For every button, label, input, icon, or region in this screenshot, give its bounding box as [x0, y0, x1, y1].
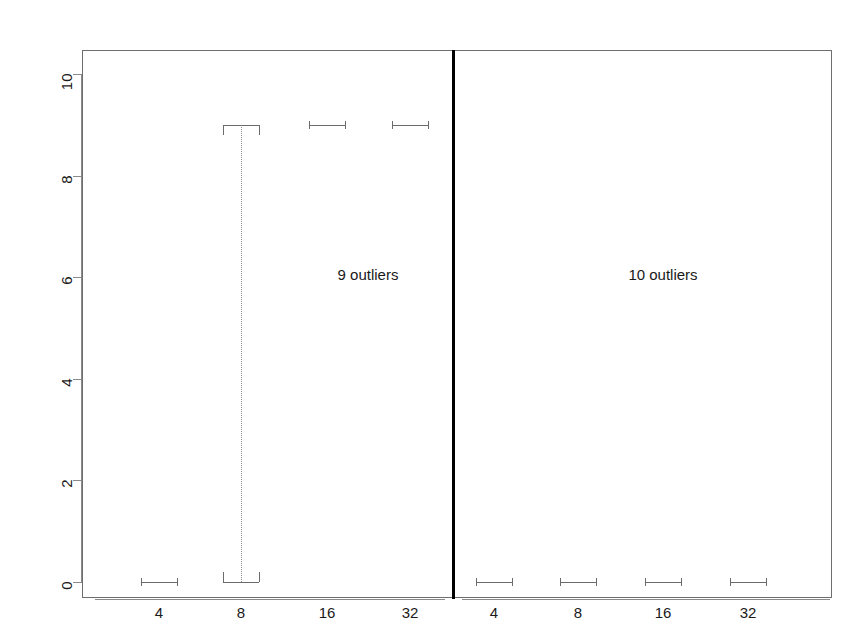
box-right-edge [766, 578, 767, 586]
x-axis-line [95, 599, 445, 600]
box-lower-left-side [223, 572, 224, 582]
box-left-edge [141, 578, 142, 586]
x-tick-label: 4 [139, 604, 179, 621]
x-tick-label: 16 [307, 604, 347, 621]
box-upper-left-side [223, 125, 224, 135]
boxplot-figure: 0246810 481632481632 9 outliers 10 outli… [0, 0, 865, 626]
box-median-line [730, 582, 766, 583]
box-upper-right-side [259, 125, 260, 135]
x-tick-label: 8 [221, 604, 261, 621]
x-tick-label: 4 [474, 604, 514, 621]
box-median-line [476, 582, 512, 583]
box-median-line [560, 582, 596, 583]
box-median-line [645, 582, 681, 583]
box-left-edge [392, 121, 393, 129]
x-tick-label: 16 [643, 604, 683, 621]
y-tick-label-text: 2 [58, 480, 75, 520]
box-right-edge [428, 121, 429, 129]
y-tick-label: 8 [22, 167, 66, 185]
panel-divider [452, 50, 455, 599]
y-tick-label: 4 [22, 370, 66, 388]
x-tick-label: 8 [558, 604, 598, 621]
y-axis-line [81, 74, 82, 583]
box-left-edge [476, 578, 477, 586]
box-lower-right-side [259, 572, 260, 582]
y-tick-label: 2 [22, 471, 66, 489]
x-tick-label: 32 [390, 604, 430, 621]
box-left-edge [730, 578, 731, 586]
y-tick-label: 6 [22, 268, 66, 286]
y-tick-label: 0 [22, 573, 66, 591]
x-axis-line [462, 599, 830, 600]
box-right-edge [345, 121, 346, 129]
y-tick-label-text: 4 [58, 378, 75, 418]
box-upper-edge [223, 125, 259, 126]
box-lower-edge [223, 582, 259, 583]
box-median-line [309, 125, 345, 126]
y-tick-label-text: 6 [58, 277, 75, 317]
y-tick-label-text: 0 [58, 582, 75, 622]
box-median-line [141, 582, 177, 583]
box-right-edge [512, 578, 513, 586]
annotation-left-panel: 9 outliers [338, 266, 399, 283]
box-right-edge [596, 578, 597, 586]
annotation-right-panel: 10 outliers [628, 266, 697, 283]
box-left-edge [645, 578, 646, 586]
box-left-edge [309, 121, 310, 129]
x-tick-label: 32 [728, 604, 768, 621]
box-left-edge [560, 578, 561, 586]
plot-frame [82, 50, 832, 598]
y-tick-label-text: 10 [58, 74, 75, 114]
y-tick-label-text: 8 [58, 175, 75, 215]
box-right-edge [177, 578, 178, 586]
box-median-line [392, 125, 428, 126]
whisker-line [241, 125, 242, 582]
box-right-edge [681, 578, 682, 586]
y-tick-label: 10 [22, 65, 66, 83]
